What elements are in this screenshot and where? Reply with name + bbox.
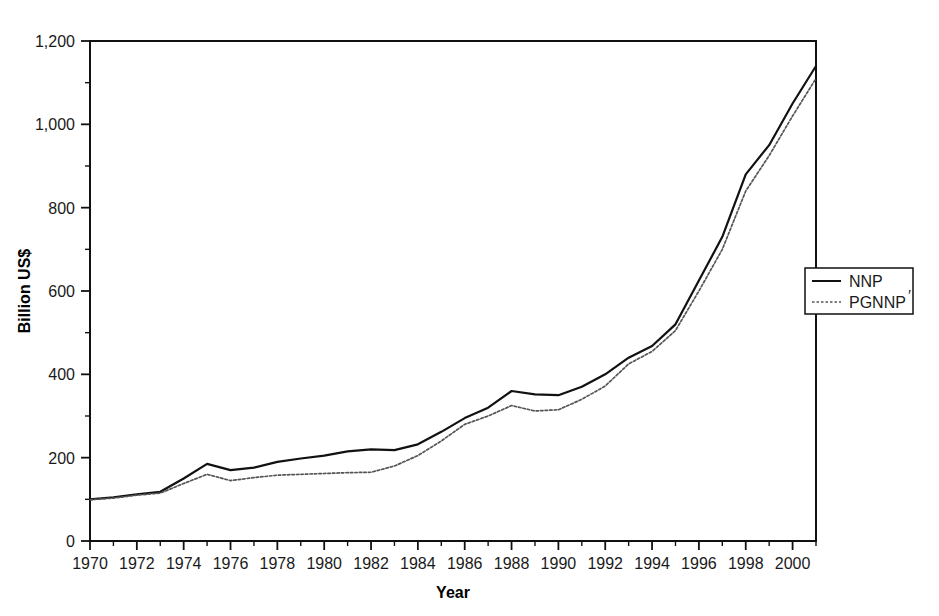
legend-label-pgnnp: PGNNP: [849, 294, 906, 311]
x-tick-label: 1980: [306, 555, 342, 572]
x-tick-label: 1998: [728, 555, 764, 572]
y-tick-label: 200: [48, 450, 75, 467]
x-tick-label: 1992: [587, 555, 623, 572]
x-axis-title: Year: [436, 584, 470, 601]
legend: NNP PGNNP ′: [805, 268, 913, 314]
plot-area-border: [90, 41, 816, 541]
x-tick-label: 1976: [213, 555, 249, 572]
y-axis: 02004006008001,0001,200: [35, 33, 90, 550]
chart-container: 02004006008001,0001,200 1970197219741976…: [0, 0, 939, 616]
y-tick-label: 1,000: [35, 116, 75, 133]
legend-label-pgnnp-prime: ′: [908, 287, 912, 304]
x-tick-label: 1972: [119, 555, 155, 572]
y-tick-label: 0: [66, 533, 75, 550]
x-tick-label: 1970: [72, 555, 108, 572]
series-line-pgnnp: [90, 79, 816, 500]
data-series-group: [90, 66, 816, 500]
series-line-nnp: [90, 66, 816, 499]
x-tick-label: 1996: [681, 555, 717, 572]
plot-frame: [90, 41, 816, 541]
x-tick-label: 1994: [634, 555, 670, 572]
x-axis: 1970197219741976197819801982198419861988…: [72, 541, 816, 572]
y-tick-label: 800: [48, 200, 75, 217]
y-tick-label: 400: [48, 366, 75, 383]
x-tick-label: 1990: [541, 555, 577, 572]
y-axis-title: Billion US$: [16, 249, 33, 334]
legend-label-nnp: NNP: [849, 273, 883, 290]
y-tick-label: 1,200: [35, 33, 75, 50]
x-tick-label: 1982: [353, 555, 389, 572]
x-tick-label: 1974: [166, 555, 202, 572]
x-tick-label: 2000: [775, 555, 811, 572]
y-tick-label: 600: [48, 283, 75, 300]
x-tick-label: 1984: [400, 555, 436, 572]
x-tick-label: 1988: [494, 555, 530, 572]
x-tick-label: 1986: [447, 555, 483, 572]
x-tick-label: 1978: [260, 555, 296, 572]
line-chart: 02004006008001,0001,200 1970197219741976…: [0, 0, 939, 616]
